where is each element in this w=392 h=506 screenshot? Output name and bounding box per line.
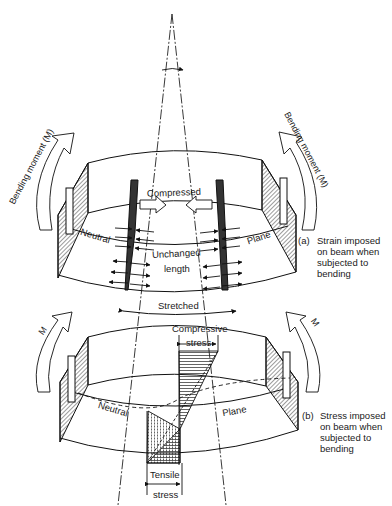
label-length: length xyxy=(164,263,190,274)
svg-text:(b): (b) xyxy=(302,410,314,421)
label-neutral-bottom: Neutral xyxy=(97,399,130,418)
svg-text:on beam when: on beam when xyxy=(320,421,382,432)
label-compressive: Compressive xyxy=(172,323,227,334)
label-moment-right: M xyxy=(309,316,321,328)
svg-text:(a): (a) xyxy=(298,235,310,246)
label-moment-left: M xyxy=(36,325,48,337)
label-stretched: Stretched xyxy=(158,300,199,311)
caption-a: (a) Strain imposed on beam when subjecte… xyxy=(298,235,380,279)
svg-text:on beam when: on beam when xyxy=(317,246,379,257)
beam-bending-diagram: Compressed Neutral Plane Unchanged lengt… xyxy=(0,0,392,506)
label-compressed: Compressed xyxy=(147,186,201,199)
label-tensile-stress: stress xyxy=(153,489,179,500)
label-plane-top: Plane xyxy=(245,228,272,246)
svg-text:bending: bending xyxy=(320,443,354,454)
stretched-arrow xyxy=(123,311,236,315)
compress-arrow-right xyxy=(186,196,212,213)
svg-text:subjected to: subjected to xyxy=(317,257,368,268)
label-neutral-top: Neutral xyxy=(79,226,112,245)
label-tensile: Tensile xyxy=(150,469,180,480)
svg-text:subjected to: subjected to xyxy=(320,432,371,443)
angle-arc xyxy=(162,69,183,71)
label-compressive-stress: stress xyxy=(186,337,212,348)
svg-text:Strain imposed: Strain imposed xyxy=(317,235,380,246)
svg-text:Stress imposed: Stress imposed xyxy=(320,410,385,421)
label-unchanged: Unchanged xyxy=(152,247,201,261)
label-plane-bottom: Plane xyxy=(221,403,247,418)
svg-text:bending: bending xyxy=(317,268,351,279)
caption-b: (b) Stress imposed on beam when subjecte… xyxy=(302,410,385,454)
